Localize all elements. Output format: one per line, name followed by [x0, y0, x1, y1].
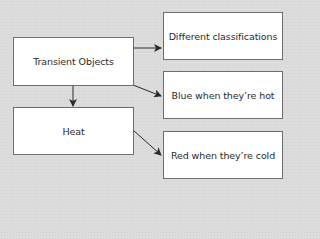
node-label: Blue when they’re hot	[172, 90, 275, 101]
node-label: Red when they’re cold	[171, 150, 275, 161]
node-blue-when-hot: Blue when they’re hot	[163, 71, 283, 119]
node-red-when-cold: Red when they’re cold	[163, 131, 283, 179]
arrow-transient-to-blue	[133, 85, 161, 96]
node-label: Transient Objects	[33, 56, 114, 67]
arrow-heat-to-red	[133, 130, 161, 155]
node-label: Different classifications	[169, 31, 278, 42]
node-transient-objects: Transient Objects	[13, 37, 134, 86]
node-label: Heat	[62, 126, 84, 137]
node-heat: Heat	[13, 107, 134, 155]
node-different-classifications: Different classifications	[163, 12, 283, 60]
